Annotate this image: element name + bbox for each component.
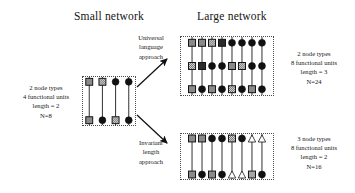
node-circle-black [209, 135, 216, 142]
caption-line: N=24 [275, 77, 353, 86]
caption-line: 2 node types [275, 49, 353, 58]
node-triangle-white [258, 135, 265, 142]
arrow-label-line: approach [122, 52, 180, 61]
caption-line: length = 2 [4, 101, 88, 110]
node-circle-black [259, 171, 266, 178]
caption-line: length = 3 [275, 67, 353, 76]
node-square-hatched [99, 78, 106, 85]
node-circle-black [249, 63, 256, 70]
network-box-small [82, 76, 136, 126]
arrow-label-line: Universal [122, 33, 180, 42]
node-circle-black [112, 78, 119, 85]
node-circle-black [259, 63, 266, 70]
node-square-gray [248, 86, 255, 93]
node-square-gray [189, 171, 196, 178]
arrow-label-invariant-length: Invariant length approach [122, 138, 180, 166]
network-box-large-universal [180, 36, 274, 96]
arrow-label-line: approach [122, 157, 180, 166]
node-circle-black [199, 171, 206, 178]
node-square-gray [228, 63, 235, 70]
node-circle-black [125, 78, 132, 85]
node-circle-black [125, 117, 132, 124]
node-square-hatched [189, 63, 196, 70]
node-square-dark [218, 39, 225, 46]
network-box-large-invariant [180, 133, 274, 180]
node-square-gray [199, 135, 206, 142]
arrow-label-line: length [122, 147, 180, 156]
node-square-gray [86, 117, 93, 124]
arrow-label-universal-language: Universal language approach [122, 33, 180, 61]
node-circle-black [219, 135, 226, 142]
caption-large-network-universal: 2 node types 8 functional units length =… [275, 49, 353, 86]
node-square-gray [86, 78, 93, 85]
network-grid [83, 77, 135, 125]
node-square-gray [208, 86, 215, 93]
caption-small-network: 2 node types 4 functional units length =… [4, 83, 88, 120]
node-square-hatched [208, 39, 215, 46]
node-triangle-white [228, 171, 235, 178]
node-circle-black [259, 86, 266, 93]
caption-large-network-invariant: 3 node types 8 functional units length =… [275, 134, 353, 171]
node-circle-black [239, 86, 246, 93]
node-square-gray [189, 86, 196, 93]
node-square-hatched [112, 117, 119, 124]
caption-line: 8 functional units [275, 143, 353, 152]
node-square-gray [189, 39, 196, 46]
node-square-gray [208, 171, 215, 178]
node-square-gray [189, 135, 196, 142]
node-circle-black [199, 86, 206, 93]
node-circle-black [239, 39, 246, 46]
node-square-hatched [248, 171, 255, 178]
arrow-label-line: Invariant [122, 138, 180, 147]
arrow-universal [137, 59, 167, 87]
node-triangle-white [238, 171, 245, 178]
node-triangle-white [248, 135, 255, 142]
node-square-gray [199, 39, 206, 46]
column-title-small-network: Small network [74, 10, 144, 22]
node-circle-black [219, 86, 226, 93]
caption-line: N=16 [275, 162, 353, 171]
node-circle-black [259, 39, 266, 46]
node-circle-black [239, 135, 246, 142]
caption-line: N=8 [4, 111, 88, 120]
node-circle-black [249, 39, 256, 46]
node-square-hatched [228, 86, 235, 93]
caption-line: 4 functional units [4, 92, 88, 101]
node-circle-black [209, 63, 216, 70]
caption-line: 3 node types [275, 134, 353, 143]
caption-line: length = 2 [275, 152, 353, 161]
node-square-dark [199, 63, 206, 70]
caption-line: 8 functional units [275, 58, 353, 67]
caption-line: 2 node types [4, 83, 88, 92]
node-circle-black [229, 39, 236, 46]
figure-canvas: Small network Large network 2 node types… [0, 0, 355, 193]
node-circle-black [219, 63, 226, 70]
network-grid [181, 37, 273, 95]
arrow-label-line: language [122, 42, 180, 51]
node-square-hatched [228, 135, 235, 142]
node-square-hatched [238, 63, 245, 70]
node-circle-black [99, 117, 106, 124]
column-title-large-network: Large network [197, 10, 267, 22]
network-grid [181, 134, 273, 179]
node-circle-black [219, 171, 226, 178]
